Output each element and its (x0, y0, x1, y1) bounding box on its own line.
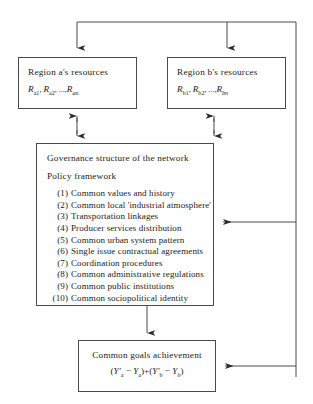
policy-item-number: (7) (47, 258, 68, 270)
policy-item-label: Coordination procedures (71, 258, 163, 270)
policy-item-number: (5) (47, 235, 68, 247)
region-b-sub-n: bn (222, 89, 228, 95)
policy-item-number: (2) (47, 200, 68, 212)
region-a-formula: Ra1, Ra2, ...,Ran (28, 85, 136, 96)
governance-structure-box: Governance structure of the network Poli… (36, 143, 214, 306)
policy-item-label: Single issue contractual agreements (71, 246, 203, 258)
policy-item-label: Common administrative regulations (71, 269, 204, 281)
policy-item: (2)Common local 'industrial atmosphere' (47, 200, 213, 212)
goals-close-paren-2: ) (180, 366, 183, 376)
policy-item: (8)Common administrative regulations (47, 269, 213, 281)
region-b-resources-box: Region b's resources Rb1, Rb2, ...,Rbn (167, 57, 286, 109)
policy-item-label: Common urban system pattern (71, 235, 184, 247)
common-goals-achievement-box: Common goals achievement (Y′a − Ya)+(Y′b… (78, 340, 216, 392)
region-b-ellipsis: , ..., (204, 85, 216, 94)
policy-item: (10)Common sociopolitical identity (47, 293, 213, 305)
policy-item-number: (3) (47, 211, 68, 223)
policy-item-label: Producer services distribution (71, 223, 181, 235)
goals-formula: (Y′a − Ya)+(Y′b − Yb) (79, 367, 215, 378)
policy-item-label: Transportation linkages (71, 211, 158, 223)
policy-item: (4)Producer services distribution (47, 223, 213, 235)
policy-item-number: (6) (47, 246, 68, 258)
policy-item: (1)Common values and history (47, 188, 213, 200)
region-a-ellipsis: , ..., (55, 85, 67, 94)
goals-y-prime-a: Y′ (114, 366, 121, 376)
goals-title: Common goals achievement (79, 350, 215, 360)
feedback-top-bus (77, 22, 296, 48)
region-a-resources-box: Region a's resources Ra1, Ra2, ...,Ran (18, 57, 137, 109)
diagram-canvas: Region a's resources Ra1, Ra2, ...,Ran R… (0, 0, 313, 404)
goals-minus-1: − (123, 366, 133, 376)
region-a-title: Region a's resources (28, 67, 136, 78)
region-a-sub-n: an (72, 89, 78, 95)
policy-item: (9)Common public institutions (47, 281, 213, 293)
goals-minus-2: − (163, 366, 173, 376)
policy-item-number: (8) (47, 269, 68, 281)
policy-item-label: Common local 'industrial atmosphere' (71, 200, 211, 212)
policy-item-number: (10) (47, 293, 68, 305)
governance-heading: Governance structure of the network (47, 153, 213, 163)
policy-item-number: (9) (47, 281, 68, 293)
policy-item-label: Common public institutions (71, 281, 174, 293)
policy-item-number: (1) (47, 188, 68, 200)
governance-subheading: Policy framework (47, 171, 213, 181)
policy-item: (7)Coordination procedures (47, 258, 213, 270)
policy-item-number: (4) (47, 223, 68, 235)
region-b-formula: Rb1, Rb2, ...,Rbn (177, 85, 285, 96)
policy-item: (6)Single issue contractual agreements (47, 246, 213, 258)
region-b-title: Region b's resources (177, 67, 285, 78)
policy-item-label: Common values and history (71, 188, 175, 200)
policy-item: (5)Common urban system pattern (47, 235, 213, 247)
policy-item: (3)Transportation linkages (47, 211, 213, 223)
policy-framework-list: (1)Common values and history(2)Common lo… (47, 188, 213, 304)
policy-item-label: Common sociopolitical identity (71, 293, 188, 305)
